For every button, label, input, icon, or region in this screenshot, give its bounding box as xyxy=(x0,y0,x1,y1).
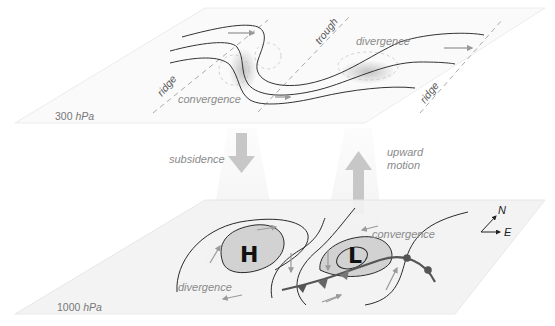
atmospheric-circulation-diagram: ridge trough ridge convergence divergenc… xyxy=(0,0,555,326)
surface-pressure-label: 1000 hPa xyxy=(57,301,102,313)
surface-divergence-label: divergence xyxy=(178,281,232,293)
upward-motion-label-1: upward xyxy=(387,146,424,158)
upward-motion-label-2: motion xyxy=(387,159,420,171)
upper-convergence-label: convergence xyxy=(178,93,241,105)
upper-level-plane: ridge trough ridge convergence divergenc… xyxy=(15,8,545,123)
high-pressure-label: H xyxy=(240,242,258,267)
subsidence-label: subsidence xyxy=(169,153,225,165)
upper-divergence-label: divergence xyxy=(356,35,410,47)
north-label: N xyxy=(498,204,506,216)
upper-pressure-label: 300 hPa xyxy=(55,110,94,122)
surface-convergence-label: convergence xyxy=(372,228,435,240)
low-pressure-label: L xyxy=(348,243,362,268)
surface-level-plane: H L divergence convergence 1000 hPa N E xyxy=(15,200,545,314)
east-label: E xyxy=(504,226,512,238)
